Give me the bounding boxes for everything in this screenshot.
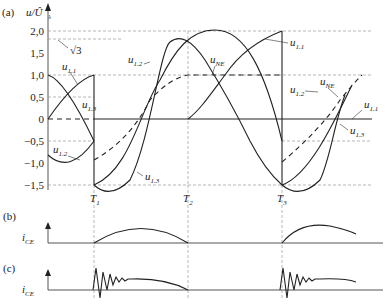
- svg-text:−1,5: −1,5: [24, 179, 44, 191]
- svg-text:u1.2: u1.2: [53, 143, 68, 158]
- c-y-axis-arrow-icon: [45, 269, 51, 276]
- svg-text:0,5: 0,5: [30, 91, 44, 103]
- svg-text:2,0: 2,0: [30, 25, 44, 37]
- y-tick-labels: 2,0 1,5 1,0 0,5 0 −0,5 −1,0 −1,5: [24, 25, 44, 191]
- c-current-ringing-1: [93, 268, 188, 298]
- panel-c-tag: (c): [3, 262, 16, 275]
- panel-c-ylabel: iCE: [22, 283, 35, 298]
- svg-text:u1.1: u1.1: [290, 36, 304, 51]
- svg-text:0: 0: [39, 113, 45, 125]
- svg-text:u1.2: u1.2: [290, 83, 305, 98]
- svg-text:u1.2: u1.2: [128, 53, 143, 68]
- svg-text:uNE: uNE: [210, 53, 225, 68]
- panel-b-tag: (b): [3, 210, 16, 223]
- time-markers: T1 T2 T3: [90, 192, 287, 207]
- b-current-pulse-1: [94, 229, 188, 244]
- b-current-pulse-2: [282, 225, 356, 243]
- svg-text:T3: T3: [277, 192, 287, 207]
- sqrt3-label: √3: [70, 44, 82, 56]
- waveform-diagram: (a) u/Û λ 2,0 1,5 1,0 0,5 0 −0,5 −1,0 −1…: [0, 0, 389, 305]
- gridlines: [48, 31, 372, 300]
- sqrt3-leader: [58, 40, 68, 48]
- curve-labels: u1.1 u1.3 u1.2 u1.2 uNE u1.3 u1.1 u1.2 u…: [53, 36, 378, 185]
- svg-text:T1: T1: [90, 192, 100, 207]
- c-current-ringing-2: [280, 268, 356, 298]
- panel-b-ylabel: iCE: [22, 231, 35, 246]
- svg-text:T2: T2: [183, 192, 193, 207]
- figure: (a) u/Û λ 2,0 1,5 1,0 0,5 0 −0,5 −1,0 −1…: [0, 0, 389, 305]
- svg-text:1,5: 1,5: [30, 47, 44, 59]
- panel-a-ylabel: u/Û: [26, 6, 44, 18]
- y-axis-arrow-icon: [45, 3, 51, 11]
- svg-text:−0,5: −0,5: [24, 135, 44, 147]
- u13-right-curve: [282, 85, 352, 185]
- svg-text:−1,0: −1,0: [24, 157, 44, 169]
- svg-text:uNE: uNE: [320, 75, 335, 90]
- svg-text:u1.3: u1.3: [350, 124, 365, 139]
- b-y-axis-arrow-icon: [45, 222, 51, 229]
- panel-a-tag: (a): [2, 6, 15, 19]
- svg-text:1,0: 1,0: [30, 69, 44, 81]
- svg-text:u1.1: u1.1: [364, 98, 378, 113]
- svg-text:u1.3: u1.3: [145, 170, 160, 185]
- u12-right-curve: [282, 95, 345, 191]
- svg-text:u1.1: u1.1: [62, 60, 76, 75]
